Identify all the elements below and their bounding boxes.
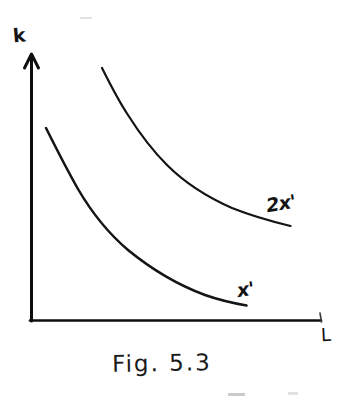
figure-container: k L 2x' x' Fig. 5.3 xyxy=(0,0,347,406)
x-axis-label: L xyxy=(321,326,332,345)
figure-caption: Fig. 5.3 xyxy=(112,351,212,376)
curve-label-x-prime: x' xyxy=(236,279,256,300)
curve-label-2x-prime: 2x' xyxy=(265,192,297,215)
isoquant-curve-upper xyxy=(102,68,291,226)
isoquant-curve-lower xyxy=(46,128,247,306)
y-axis-label: k xyxy=(12,25,26,45)
